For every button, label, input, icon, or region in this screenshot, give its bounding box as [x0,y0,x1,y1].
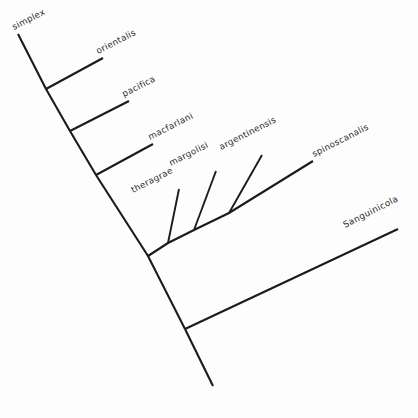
taxon-labels: simplex orientalis pacifica macfarlani t… [10,7,399,230]
taxon-label-macfarlani: macfarlani [146,111,194,142]
phylogenetic-tree-figure: simplex orientalis pacifica macfarlani t… [0,0,418,418]
taxon-label-argentinensis: argentinensis [217,114,278,151]
taxon-label-margolisi: margolisi [167,140,209,168]
taxon-label-simplex: simplex [10,7,46,32]
taxon-label-spinoscanalis: spinoscanalis [310,122,370,159]
taxon-label-sanguinicola: Sanguinicola [341,193,399,229]
taxon-label-orientalis: orientalis [94,27,137,56]
branch-argentinensis [229,155,262,213]
branch-root-stem [185,329,213,386]
branch-macfarlani [96,144,153,175]
taxon-label-theragrae: theragrae [129,165,174,195]
taxon-label-pacifica: pacifica [120,74,157,99]
branch-theragrae [168,189,179,243]
branch-sanguinicola [185,229,398,329]
branch-pacifica [70,101,129,131]
branch-orientalis [46,58,103,89]
cladogram-svg: simplex orientalis pacifica macfarlani t… [0,0,418,418]
